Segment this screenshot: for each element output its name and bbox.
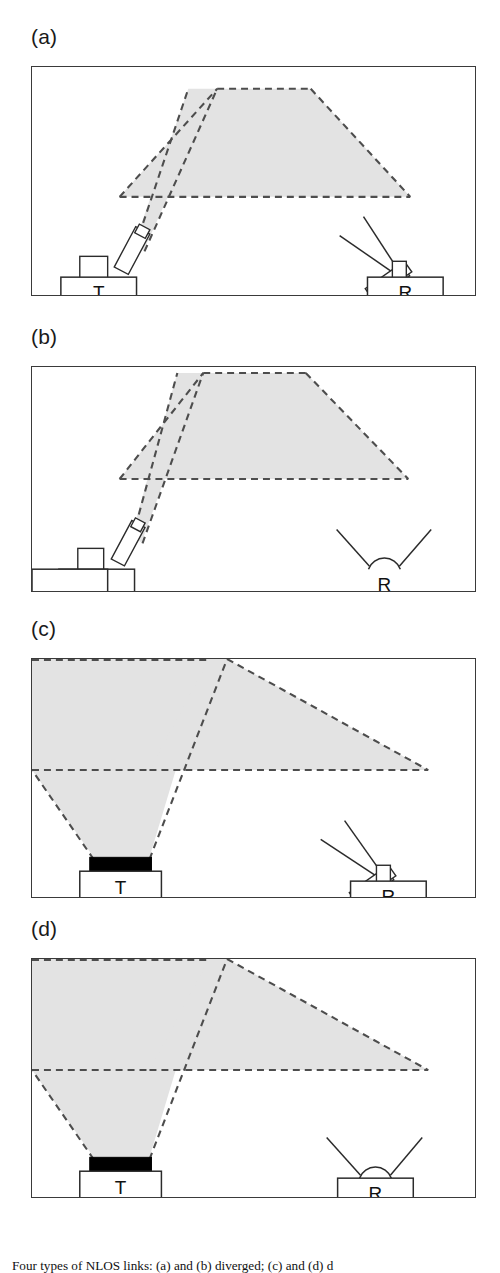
panel-d-stage: T R bbox=[32, 959, 475, 1197]
panel-d-frame: T R bbox=[31, 958, 476, 1198]
transmitter-label: T bbox=[115, 877, 127, 897]
panel-a-stage: T R bbox=[32, 67, 475, 295]
transmitter-post bbox=[80, 256, 108, 278]
narrow-fov-rays bbox=[340, 217, 399, 273]
panel-c-label: (c) bbox=[31, 618, 56, 639]
receiver-assembly-d: R bbox=[327, 1138, 423, 1198]
transmitter-assembly-a: T bbox=[61, 223, 152, 295]
receiver-label: R bbox=[369, 1183, 383, 1197]
receiver-assembly-a: R bbox=[340, 217, 444, 295]
receiver-box bbox=[32, 569, 108, 591]
narrow-fov-rays bbox=[321, 821, 383, 877]
panel-b-stage: T R bbox=[32, 367, 475, 591]
panel-a-frame: T R bbox=[31, 66, 476, 296]
panel-b-frame: T R bbox=[31, 366, 476, 592]
panel-b: (b) bbox=[0, 326, 500, 622]
receiver-label: R bbox=[378, 574, 392, 591]
transmitter-label: T bbox=[93, 282, 105, 295]
hemispherical-dome-icon bbox=[368, 558, 400, 569]
panel-d-label: (d) bbox=[31, 918, 57, 939]
panel-a: (a) bbox=[0, 26, 500, 326]
receiver-label: R bbox=[382, 886, 396, 897]
transmitter-assembly-d: T bbox=[80, 1157, 162, 1197]
hemispherical-dome-icon bbox=[360, 1167, 392, 1178]
panel-d: (d) T bbox=[0, 918, 500, 1218]
figure-caption: Four types of NLOS links: (a) and (b) di… bbox=[12, 1258, 494, 1273]
receiver-label: R bbox=[398, 282, 412, 295]
panel-b-label: (b) bbox=[31, 326, 57, 347]
flat-diffuse-emitter-icon bbox=[90, 1157, 152, 1171]
transmitter-assembly-c: T bbox=[80, 857, 162, 897]
panel-c: (c) bbox=[0, 618, 500, 918]
figure-nlos-link-geometries: (a) bbox=[0, 0, 500, 1273]
panel-c-frame: T R bbox=[31, 658, 476, 898]
receiver-assembly-c: R bbox=[321, 821, 427, 897]
transmitter-post bbox=[78, 548, 104, 570]
transmitter-label: T bbox=[115, 1177, 127, 1197]
panel-a-label: (a) bbox=[31, 26, 57, 47]
flat-diffuse-emitter-icon bbox=[90, 857, 152, 871]
panel-c-stage: T R bbox=[32, 659, 475, 897]
